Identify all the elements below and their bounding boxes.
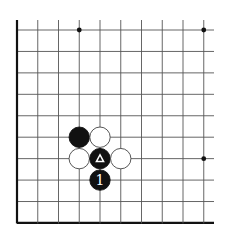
black-stone xyxy=(90,148,110,168)
star-point-icon xyxy=(201,28,206,33)
white-stone-icon xyxy=(111,148,131,168)
board-grid xyxy=(17,20,214,223)
white-stone-icon xyxy=(90,127,110,147)
stones-layer: 1 xyxy=(69,127,131,190)
black-stone xyxy=(69,127,89,147)
white-stone-icon xyxy=(69,148,89,168)
black-stone: 1 xyxy=(90,170,110,190)
move-number-label: 1 xyxy=(96,172,105,188)
white-stone xyxy=(69,148,89,168)
black-stone-icon xyxy=(90,148,110,168)
go-board-diagram: 1 xyxy=(0,0,229,241)
white-stone xyxy=(111,148,131,168)
black-stone-icon xyxy=(69,127,89,147)
star-point-icon xyxy=(77,28,82,33)
white-stone xyxy=(90,127,110,147)
star-point-icon xyxy=(201,156,206,161)
